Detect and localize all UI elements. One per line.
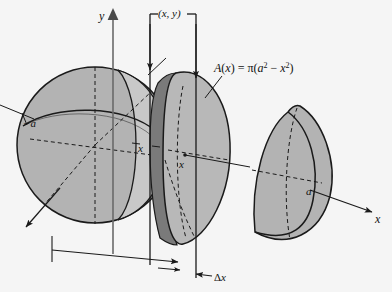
label-pos-a: a <box>306 185 312 197</box>
sphere-cross-section-diagram: −a y x a x x <box>0 0 392 292</box>
slab-center-dot <box>183 153 187 157</box>
label-x-right: x <box>178 158 184 170</box>
label-y-axis: y <box>98 9 105 23</box>
label-neg-a: −a <box>23 117 36 129</box>
label-delta-x: Δx <box>214 271 226 283</box>
label-x-axis: x <box>374 212 381 226</box>
label-point-xy: (x, y) <box>158 7 181 20</box>
figure-root: −a y x a x x <box>0 0 392 292</box>
label-area-formula: A(x) = π(a2 − x2) <box>213 61 294 76</box>
